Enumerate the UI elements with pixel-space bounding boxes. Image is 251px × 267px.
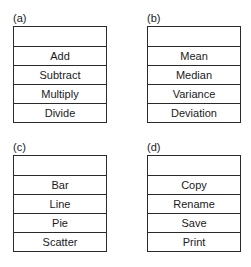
menu-title-bar: [148, 27, 240, 47]
menu-item-add[interactable]: Add: [14, 47, 106, 66]
panel-label: (d): [147, 141, 160, 153]
menu-item-scatter[interactable]: Scatter: [14, 233, 106, 251]
menu-title-bar: [148, 156, 240, 176]
menu-item-mean[interactable]: Mean: [148, 47, 240, 66]
panel-label: (c): [13, 141, 26, 153]
menu-item-bar[interactable]: Bar: [14, 176, 106, 195]
menu-item-multiply[interactable]: Multiply: [14, 85, 106, 104]
panel-label: (a): [13, 12, 26, 24]
menu-title-bar: [14, 156, 106, 176]
menu-item-median[interactable]: Median: [148, 66, 240, 85]
menu-item-deviation[interactable]: Deviation: [148, 104, 240, 122]
menu-item-save[interactable]: Save: [148, 214, 240, 233]
menu-a: Add Subtract Multiply Divide: [13, 26, 107, 123]
menu-b: Mean Median Variance Deviation: [147, 26, 241, 123]
panel-label: (b): [147, 12, 160, 24]
menu-d: Copy Rename Save Print: [147, 155, 241, 252]
menu-item-divide[interactable]: Divide: [14, 104, 106, 122]
menu-item-subtract[interactable]: Subtract: [14, 66, 106, 85]
menu-item-pie[interactable]: Pie: [14, 214, 106, 233]
menu-item-copy[interactable]: Copy: [148, 176, 240, 195]
menu-item-rename[interactable]: Rename: [148, 195, 240, 214]
menu-title-bar: [14, 27, 106, 47]
menu-item-print[interactable]: Print: [148, 233, 240, 251]
menu-item-variance[interactable]: Variance: [148, 85, 240, 104]
menu-c: Bar Line Pie Scatter: [13, 155, 107, 252]
menu-item-line[interactable]: Line: [14, 195, 106, 214]
